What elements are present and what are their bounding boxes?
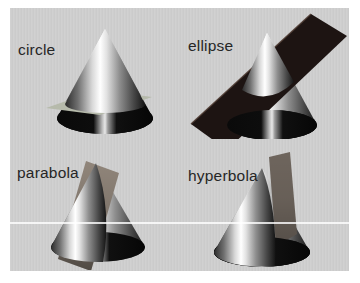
quadrant-hyperbola: hyperbola (179, 139, 349, 270)
ellipse-cone-figure (179, 8, 349, 139)
quadrant-circle: circle (10, 8, 180, 139)
quadrant-ellipse: ellipse (179, 8, 349, 139)
label-circle: circle (18, 42, 55, 58)
label-parabola: parabola (17, 165, 79, 181)
conic-sections-panel: circle ellipse parabola (10, 8, 349, 271)
cone-base-front (227, 110, 317, 139)
circle-cone-figure (10, 8, 180, 139)
parabola-cone-figure (10, 139, 180, 270)
photo-artifact-line (10, 222, 349, 224)
quadrant-parabola: parabola (10, 139, 180, 270)
label-hyperbola: hyperbola (188, 168, 258, 184)
cone-upper-section (65, 29, 145, 113)
hyperbola-cone-figure (179, 139, 349, 270)
label-ellipse: ellipse (188, 38, 233, 54)
